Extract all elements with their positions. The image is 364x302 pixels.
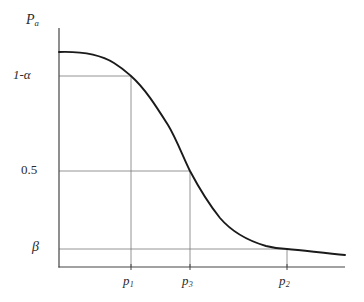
y-axis-caption-symbol: P <box>26 12 35 27</box>
x-tick-label-p3-symbol: p <box>182 273 189 288</box>
y-tick-label-half: 0.5 <box>21 163 37 176</box>
y-tick-label-one-minus-alpha: 1-α <box>13 68 31 81</box>
x-tick-label-p1-subscript: 1 <box>130 280 134 289</box>
x-tick-label-p1-symbol: p <box>123 273 130 288</box>
x-tick-label-p2: p2 <box>279 274 290 289</box>
plot-area <box>0 0 364 302</box>
y-axis-caption-subscript: a <box>35 18 39 28</box>
x-tick-label-p2-subscript: 2 <box>286 280 290 289</box>
y-tick-label-beta: β <box>32 240 39 254</box>
x-tick-label-p1: p1 <box>123 274 134 289</box>
x-tick-label-p2-symbol: p <box>279 273 286 288</box>
oc-curve-path <box>59 52 345 255</box>
oc-curve-figure: Pa 1-α 0.5 β p1 p3 p2 <box>0 0 364 302</box>
x-tick-label-p3: p3 <box>182 274 193 289</box>
x-tick-label-p3-subscript: 3 <box>189 280 193 289</box>
y-axis-caption: Pa <box>26 13 39 28</box>
